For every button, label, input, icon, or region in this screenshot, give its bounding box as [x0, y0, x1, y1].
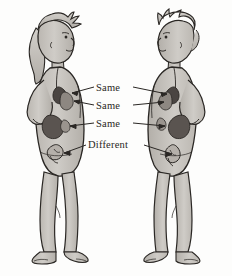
annotation-label-same-1: Same	[96, 83, 120, 94]
left-figure-leg-back	[40, 172, 58, 252]
right-figure-eye	[165, 35, 168, 38]
anatomy-comparison-illustration	[0, 0, 232, 276]
annotation-label-same-2: Same	[96, 101, 120, 112]
left-figure-eye	[65, 35, 68, 38]
illustration-canvas: Same Same Same Different	[0, 0, 232, 276]
right-figure-leg-back	[174, 172, 192, 252]
annotation-label-same-3: Same	[96, 119, 120, 130]
annotation-label-different: Different	[88, 140, 128, 151]
